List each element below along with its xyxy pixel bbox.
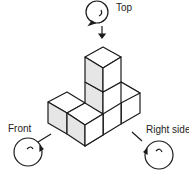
- top-label: Top: [116, 2, 132, 13]
- front-viewer-eye-icon: [14, 134, 51, 166]
- top-viewer-eye-icon: [86, 1, 108, 38]
- cube-structure: [0, 0, 189, 176]
- right-side-label: Right side: [146, 124, 189, 135]
- front-label: Front: [8, 123, 31, 134]
- right-viewer-eye-icon: [132, 132, 173, 169]
